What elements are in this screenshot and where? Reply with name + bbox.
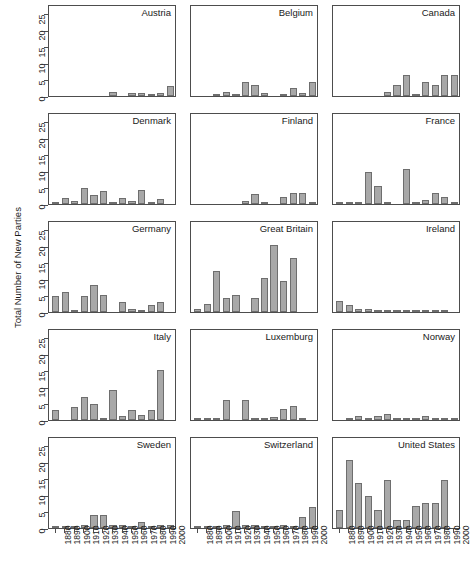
y-tick-label: 0: [38, 97, 47, 102]
bar: [384, 414, 391, 420]
bar: [451, 202, 458, 204]
bar: [403, 418, 410, 420]
x-tick: [292, 529, 293, 533]
x-tick-label: 1970: [292, 526, 301, 545]
bar: [148, 305, 155, 312]
bar: [157, 93, 164, 96]
x-tick-label: 1960: [141, 526, 150, 545]
bar: [280, 281, 287, 312]
bar: [71, 310, 78, 312]
panel-frame: Canada: [332, 5, 460, 97]
x-tick: [83, 529, 84, 533]
x-axis: 1880189019001910192019301940195019601970…: [332, 529, 460, 569]
bar: [109, 92, 116, 96]
bar: [374, 416, 381, 420]
panel-finland: Finland: [190, 113, 318, 205]
panel-france: France: [332, 113, 460, 205]
x-tick-label: 1880: [64, 526, 73, 545]
y-tick-label: 10: [38, 64, 47, 74]
bar: [194, 526, 201, 528]
x-axis: 1880189019001910192019301940195019601970…: [190, 529, 318, 569]
y-tick-label: 5: [38, 404, 47, 409]
panel-frame: United States: [332, 437, 460, 529]
bar: [451, 418, 458, 420]
bar: [71, 201, 78, 204]
bar: [355, 309, 362, 312]
x-tick: [425, 529, 426, 533]
x-tick: [415, 529, 416, 533]
bar: [81, 296, 88, 312]
bar: [384, 202, 391, 204]
plot-area: [49, 222, 175, 312]
bar: [81, 397, 88, 420]
y-axis: 0510152025: [40, 221, 48, 313]
x-tick: [396, 529, 397, 533]
x-tick-label: 2000: [179, 526, 188, 545]
plot-area: [49, 114, 175, 204]
panel-title: Belgium: [279, 7, 313, 18]
x-tick-label: 1970: [434, 526, 443, 545]
x-tick: [150, 529, 151, 533]
bar: [346, 418, 353, 420]
plot-area: [191, 330, 317, 420]
bar: [213, 418, 220, 420]
bar: [355, 483, 362, 528]
bar: [119, 198, 126, 204]
panel-title: Canada: [422, 7, 455, 18]
panel-frame: Denmark: [48, 113, 176, 205]
bar: [412, 418, 419, 420]
x-tick: [273, 529, 274, 533]
panel-frame: Austria: [48, 5, 176, 97]
y-axis: 0510152025: [40, 329, 48, 421]
x-tick: [453, 529, 454, 533]
bar: [270, 245, 277, 312]
bar: [422, 416, 429, 420]
y-tick-label: 15: [38, 371, 47, 381]
bar: [109, 202, 116, 204]
bar: [90, 195, 97, 204]
bar: [441, 310, 448, 312]
bar: [384, 480, 391, 528]
y-tick-label: 20: [38, 355, 47, 365]
x-tick: [206, 529, 207, 533]
x-tick: [348, 529, 349, 533]
y-tick-label: 10: [38, 496, 47, 506]
bar: [299, 418, 306, 420]
bar: [441, 197, 448, 204]
panel-sweden: Sweden0510152025188018901900191019201930…: [48, 437, 176, 529]
x-tick: [386, 529, 387, 533]
bar: [52, 296, 59, 312]
bar: [403, 310, 410, 312]
y-axis: 0510152025: [40, 437, 48, 529]
bar: [374, 186, 381, 204]
bar: [194, 309, 201, 312]
bar: [138, 190, 145, 204]
x-tick: [339, 529, 340, 533]
bar: [393, 310, 400, 312]
panel-united-states: United States188018901900191019201930194…: [332, 437, 460, 529]
x-tick: [55, 529, 56, 533]
x-tick-label: 1950: [415, 526, 424, 545]
y-tick-label: 25: [38, 14, 47, 24]
panel-title: Norway: [423, 331, 455, 342]
panel-canada: Canada: [332, 5, 460, 97]
bar: [223, 298, 230, 313]
plot-area: [333, 114, 459, 204]
panel-frame: Belgium: [190, 5, 318, 97]
y-axis: 0510152025: [40, 5, 48, 97]
bar: [119, 416, 126, 420]
y-tick-label: 25: [38, 122, 47, 132]
x-tick-label: 1910: [235, 526, 244, 545]
bar: [384, 310, 391, 312]
panel-title: United States: [398, 439, 455, 450]
x-tick-label: 1880: [348, 526, 357, 545]
x-tick: [367, 529, 368, 533]
bar: [365, 172, 372, 204]
bar: [232, 295, 239, 312]
bar: [290, 258, 297, 312]
plot-area: [333, 6, 459, 96]
bar: [138, 310, 145, 312]
y-tick-label: 25: [38, 338, 47, 348]
x-tick: [122, 529, 123, 533]
